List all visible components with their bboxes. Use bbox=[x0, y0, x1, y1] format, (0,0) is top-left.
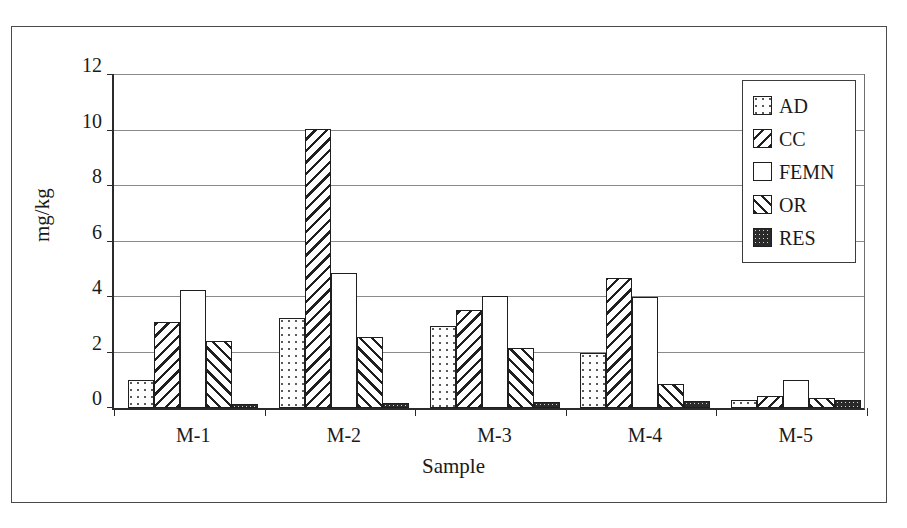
x-axis-tick-label: M-3 bbox=[477, 424, 511, 447]
legend-label: CC bbox=[779, 129, 806, 149]
y-axis-tick-label: 12 bbox=[82, 55, 102, 75]
bar-m-5-ad[interactable] bbox=[731, 400, 757, 408]
bar-m-4-cc[interactable] bbox=[606, 278, 632, 408]
bar-m-4-or[interactable] bbox=[658, 384, 684, 408]
x-axis-tick bbox=[716, 408, 717, 416]
legend-label: FEMN bbox=[779, 162, 835, 182]
y-axis-title: mg/kg bbox=[30, 188, 55, 242]
legend-item-res[interactable]: RES bbox=[743, 221, 855, 254]
y-axis-tick-label: 0 bbox=[92, 388, 102, 408]
legend-swatch-cc-icon bbox=[753, 129, 772, 148]
x-axis-title: Sample bbox=[0, 454, 907, 479]
y-axis-tick-label: 2 bbox=[92, 333, 102, 353]
bar-m-3-or[interactable] bbox=[508, 348, 534, 408]
x-axis-tick bbox=[867, 408, 868, 416]
bar-m-4-ad[interactable] bbox=[580, 353, 606, 409]
y-axis-tick bbox=[107, 130, 114, 131]
bar-m-2-cc[interactable] bbox=[305, 129, 331, 408]
y-axis-tick bbox=[107, 185, 114, 186]
legend-item-femn[interactable]: FEMN bbox=[743, 155, 855, 188]
x-axis-tick bbox=[566, 408, 567, 416]
bar-group bbox=[279, 75, 409, 408]
legend-swatch-res-icon bbox=[753, 228, 772, 247]
x-axis-tick-label: M-5 bbox=[778, 424, 812, 447]
bar-m-2-res[interactable] bbox=[383, 403, 409, 408]
bar-m-4-res[interactable] bbox=[684, 401, 710, 408]
bar-m-2-ad[interactable] bbox=[279, 318, 305, 408]
legend-label: AD bbox=[779, 96, 808, 116]
bar-m-3-res[interactable] bbox=[534, 402, 560, 408]
bar-m-3-femn[interactable] bbox=[482, 296, 508, 408]
legend-label: OR bbox=[779, 195, 807, 215]
legend-item-cc[interactable]: CC bbox=[743, 122, 855, 155]
bar-m-4-femn[interactable] bbox=[632, 297, 658, 408]
y-axis-tick bbox=[107, 407, 114, 408]
bar-m-5-res[interactable] bbox=[835, 400, 861, 408]
bar-m-1-or[interactable] bbox=[206, 341, 232, 408]
y-axis-tick-label: 10 bbox=[82, 111, 102, 131]
bar-m-5-cc[interactable] bbox=[757, 396, 783, 408]
legend-swatch-ad-icon bbox=[753, 96, 772, 115]
y-axis-tick-label: 6 bbox=[92, 222, 102, 242]
legend-swatch-or-icon bbox=[753, 195, 772, 214]
x-axis-tick bbox=[415, 408, 416, 416]
bar-m-1-res[interactable] bbox=[232, 404, 258, 408]
x-axis-tick bbox=[265, 408, 266, 416]
legend-item-or[interactable]: OR bbox=[743, 188, 855, 221]
bar-group bbox=[430, 75, 560, 408]
legend-label: RES bbox=[779, 228, 816, 248]
x-axis-tick-label: M-4 bbox=[628, 424, 662, 447]
bar-m-1-cc[interactable] bbox=[154, 322, 180, 408]
y-axis-tick bbox=[107, 352, 114, 353]
bar-m-3-cc[interactable] bbox=[456, 310, 482, 409]
x-axis-tick-label: M-2 bbox=[327, 424, 361, 447]
figure: mg/kg 024681012 M-1M-2M-3M-4M-5 Sample A… bbox=[0, 0, 907, 528]
bar-m-2-femn[interactable] bbox=[331, 273, 357, 408]
bar-m-5-femn[interactable] bbox=[783, 380, 809, 408]
bar-m-1-femn[interactable] bbox=[180, 290, 206, 408]
bar-group bbox=[128, 75, 258, 408]
bar-group bbox=[580, 75, 710, 408]
x-axis-tick bbox=[114, 408, 115, 416]
bar-m-2-or[interactable] bbox=[357, 337, 383, 408]
y-axis-tick bbox=[107, 74, 114, 75]
legend: ADCCFEMNORRES bbox=[742, 80, 856, 263]
y-axis-tick bbox=[107, 241, 114, 242]
y-axis-tick-label: 4 bbox=[92, 277, 102, 297]
legend-item-ad[interactable]: AD bbox=[743, 89, 855, 122]
bar-m-3-ad[interactable] bbox=[430, 326, 456, 408]
y-axis-tick bbox=[107, 296, 114, 297]
legend-swatch-femn-icon bbox=[753, 162, 772, 181]
x-axis-tick-label: M-1 bbox=[176, 424, 210, 447]
bar-m-1-ad[interactable] bbox=[128, 380, 154, 408]
y-axis-tick-label: 8 bbox=[92, 166, 102, 186]
bar-m-5-or[interactable] bbox=[809, 398, 835, 408]
